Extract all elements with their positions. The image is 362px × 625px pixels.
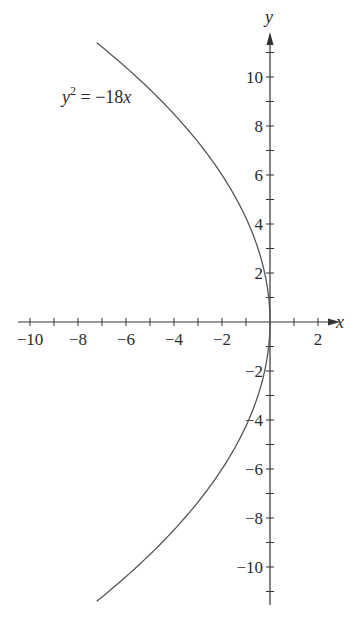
y-tick-label: −8 [245, 509, 263, 528]
x-tick-label: −6 [117, 330, 135, 349]
y-tick-label: −4 [245, 411, 264, 430]
x-tick-label: 2 [314, 330, 323, 349]
x-tick-label: −4 [165, 330, 184, 349]
y-axis-label: y [263, 7, 273, 27]
equation-label: y2 = −18x [60, 84, 131, 107]
x-tick-label: −2 [213, 330, 231, 349]
y-tick-label: −2 [245, 362, 263, 381]
x-axis-label: x [335, 312, 344, 332]
x-tick-label: −8 [69, 330, 87, 349]
y-tick-label: 2 [255, 264, 264, 283]
y-tick-label: −6 [245, 460, 263, 479]
y-axis-arrow-icon [267, 32, 274, 45]
equation-middle: = −18 [76, 87, 123, 107]
y-tick-label: 8 [255, 117, 264, 136]
y-tick-label: 6 [255, 166, 264, 185]
y-tick-label: 4 [255, 215, 264, 234]
y-tick-label: −10 [236, 558, 263, 577]
parabola-chart: −10−8−6−4−22108642−2−4−6−8−10 x y y2 = −… [0, 0, 362, 625]
equation-lhs-var: y [60, 87, 70, 107]
axes [18, 32, 340, 605]
y-tick-label: 10 [246, 68, 263, 87]
x-tick-label: −10 [17, 330, 44, 349]
equation-rhs-var: x [122, 87, 131, 107]
